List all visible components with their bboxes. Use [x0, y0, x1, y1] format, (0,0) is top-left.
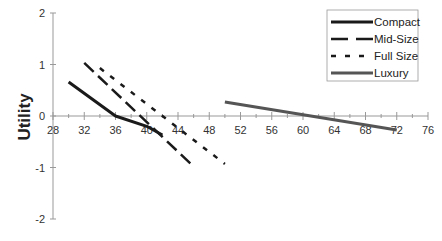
x-tick-label: 60 [297, 124, 309, 136]
series-mid-size [84, 63, 193, 167]
x-tick-label: 56 [266, 124, 278, 136]
x-tick-label: 36 [109, 124, 121, 136]
x-tick-label: 76 [422, 124, 434, 136]
y-axis-label: Utility [15, 93, 34, 141]
legend-label: Luxury [374, 67, 409, 79]
x-tick-label: 48 [203, 124, 215, 136]
x-tick-label: 52 [234, 124, 246, 136]
legend-label: Mid-Size [374, 33, 419, 45]
y-tick-label: 1 [39, 59, 45, 71]
legend-label: Full Size [374, 50, 418, 62]
x-tick-label: 28 [47, 124, 59, 136]
y-tick-label: 2 [39, 7, 45, 19]
x-tick-label: 64 [328, 124, 340, 136]
y-tick-label: 0 [39, 110, 45, 122]
legend: CompactMid-SizeFull SizeLuxury [327, 10, 421, 81]
legend-label: Compact [374, 16, 421, 28]
y-tick-label: -1 [35, 162, 45, 174]
chart: 210-1-228323640444852566064687276 Utilit… [0, 0, 442, 241]
y-tick-label: -2 [35, 213, 45, 225]
x-tick-label: 32 [78, 124, 90, 136]
